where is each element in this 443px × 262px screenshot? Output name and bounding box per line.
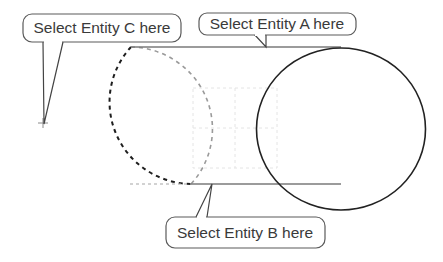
callout-a-label: Select Entity A here [210,15,344,32]
callout-entity-c: Select Entity C here [23,14,181,124]
cad-diagram-canvas: Select Entity C here Select Entity A her… [0,0,443,262]
callout-entity-b: Select Entity B here [166,184,325,248]
callout-c-label: Select Entity C here [34,19,171,36]
callout-entity-a: Select Entity A here [199,13,356,47]
crosshair-cursor-icon [38,118,48,128]
callout-b-label: Select Entity B here [177,224,313,241]
entity-c-dashed-circle[interactable] [110,47,213,184]
solid-circle-right[interactable] [257,48,426,210]
construction-grid [193,88,277,168]
